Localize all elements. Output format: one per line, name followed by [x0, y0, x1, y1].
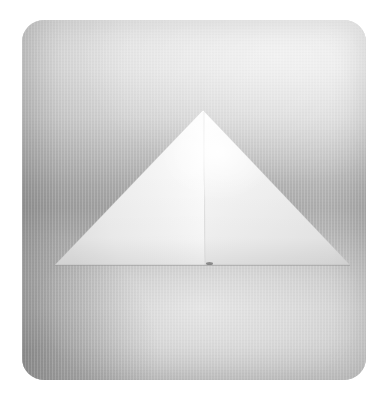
image-canvas: [0, 0, 387, 405]
backdrop-texture-overlay: [22, 20, 366, 380]
surface-speck-mark: [206, 262, 213, 265]
photo-tile: [22, 20, 366, 380]
